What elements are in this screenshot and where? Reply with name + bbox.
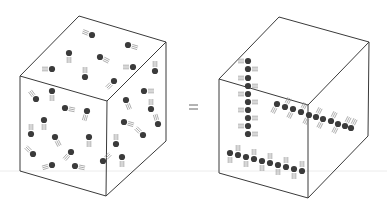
gas-particle: [25, 146, 36, 157]
particle-dot: [41, 117, 47, 123]
particle-dot: [68, 149, 74, 155]
motion-streak: [128, 123, 134, 125]
gas-particle: [238, 107, 251, 113]
gas-particle: [267, 153, 273, 166]
motion-streak: [86, 115, 88, 121]
gas-particle: [121, 119, 134, 127]
particle-dot: [82, 74, 88, 80]
particle-dot: [28, 131, 34, 137]
gas-particle: [148, 99, 154, 112]
gas-particle: [52, 134, 61, 147]
motion-streak: [79, 165, 85, 166]
particle-dot: [274, 101, 280, 107]
gas-particle: [245, 131, 258, 137]
motion-streak: [82, 33, 88, 35]
particle-dot: [275, 162, 281, 168]
gas-particle: [62, 105, 75, 112]
motion-streak: [84, 115, 86, 121]
particle-dot: [291, 166, 297, 172]
particle-dot: [97, 54, 103, 60]
particle-dot: [100, 158, 106, 164]
motion-streak: [129, 103, 131, 109]
particle-dot: [245, 66, 251, 72]
particle-dot: [33, 96, 39, 102]
particle-dot: [140, 132, 146, 138]
gas-particle: [251, 149, 257, 162]
particle-dot: [313, 114, 319, 120]
particle-dot: [62, 105, 68, 111]
gas-particle: [245, 115, 258, 121]
particle-dot: [125, 42, 131, 48]
particle-dot: [86, 134, 92, 140]
motion-streak: [132, 46, 138, 48]
gas-particle: [66, 50, 72, 63]
particle-group: [227, 58, 357, 179]
gas-particle: [259, 158, 265, 171]
gas-particle: [86, 134, 92, 147]
particle-dot: [282, 104, 288, 110]
particle-dot: [119, 154, 125, 160]
gas-particle: [245, 66, 258, 72]
gas-particle: [28, 124, 34, 137]
motion-streak: [155, 114, 157, 120]
gas-particle: [243, 154, 249, 167]
particle-dot: [89, 32, 95, 38]
gas-particle: [82, 30, 95, 38]
particle-dot: [123, 97, 129, 103]
particle-dot: [299, 168, 305, 174]
motion-streak: [43, 168, 49, 170]
cube-edge: [219, 173, 308, 198]
cube-edge: [219, 79, 308, 105]
gas-particle: [106, 78, 117, 89]
motion-streak: [128, 121, 134, 123]
cube-edge: [20, 171, 106, 196]
motion-streak: [69, 111, 75, 112]
particle-dot: [66, 50, 72, 56]
particle-dot: [348, 125, 354, 131]
gas-particle: [82, 108, 90, 121]
cube-edge: [79, 16, 166, 42]
motion-streak: [83, 30, 89, 32]
cube-edge: [20, 76, 107, 101]
motion-streak: [127, 125, 133, 127]
particle-dot: [245, 75, 251, 81]
gas-particle: [271, 101, 280, 114]
gas-particle: [123, 97, 131, 110]
gas-particle: [42, 162, 55, 170]
particle-dot: [335, 121, 341, 127]
particle-dot: [49, 88, 55, 94]
motion-streak: [42, 164, 48, 166]
random-distribution-cube: [20, 16, 166, 196]
motion-streak: [157, 114, 159, 120]
cube-edges: [20, 16, 166, 196]
cube-edge: [20, 16, 79, 76]
particle-dot: [245, 115, 251, 121]
gas-particle: [63, 149, 74, 161]
particle-dot: [113, 141, 119, 147]
particle-dot: [298, 109, 304, 115]
motion-streak: [69, 107, 75, 108]
gas-particle: [291, 166, 297, 179]
gas-particle: [283, 157, 289, 170]
particle-dot: [245, 99, 251, 105]
cube-edge: [308, 136, 368, 198]
gas-particle: [287, 106, 296, 119]
motion-streak: [153, 115, 155, 121]
particle-dot: [235, 152, 241, 158]
gas-particle: [97, 54, 110, 63]
gas-particle: [299, 161, 305, 174]
particle-dot: [130, 64, 136, 70]
particle-dot: [251, 156, 257, 162]
particle-dot: [267, 160, 273, 166]
particle-dot: [49, 66, 55, 72]
particle-dot: [152, 68, 158, 74]
particle-dot: [245, 107, 251, 113]
particle-dot: [49, 162, 55, 168]
gas-particle: [348, 118, 357, 131]
motion-streak: [79, 169, 85, 170]
particle-dot: [245, 58, 251, 64]
motion-streak: [127, 104, 129, 110]
gas-particle: [238, 75, 251, 81]
gas-particle: [41, 117, 47, 130]
gas-particle: [238, 123, 251, 129]
